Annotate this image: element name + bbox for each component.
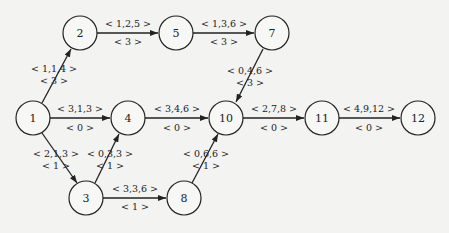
edge-label-11-12-a: < 4,9,12 >	[343, 103, 395, 114]
node-12: 12	[401, 101, 435, 135]
node-1: 1	[16, 101, 50, 135]
svg-text:12: 12	[411, 112, 425, 125]
edge-label-1-4-b: < 0 >	[66, 122, 94, 133]
edge-label-3-4-b: < 1 >	[96, 160, 124, 171]
svg-text:7: 7	[269, 27, 276, 40]
edge-label-1-3-b: < 1 >	[42, 160, 70, 171]
edge-label-3-8-b: < 1 >	[121, 201, 149, 212]
node-10: 10	[209, 101, 243, 135]
edge-label-4-10-a: < 3,4,6 >	[154, 103, 200, 114]
edge-label-7-10-a: < 0,4,6 >	[227, 65, 273, 76]
svg-text:8: 8	[181, 192, 188, 205]
svg-text:3: 3	[83, 192, 90, 205]
svg-text:5: 5	[173, 27, 180, 40]
edge-label-7-10-b: < 3 >	[236, 77, 264, 88]
node-4: 4	[111, 101, 145, 135]
edge-label-1-2-b: < 3 >	[40, 75, 68, 86]
edge-label-5-7-b: < 3 >	[210, 36, 238, 47]
edge-label-8-10-b: < 1 >	[192, 160, 220, 171]
edge-label-8-10-a: < 0,6,6 >	[183, 148, 229, 159]
svg-text:11: 11	[315, 112, 329, 125]
svg-text:2: 2	[77, 27, 84, 40]
edge-label-1-4-a: < 3,1,3 >	[57, 103, 103, 114]
edge-label-3-8-a: < 3,3,6 >	[112, 183, 158, 194]
edge-label-2-5-b: < 3 >	[114, 36, 142, 47]
edge-label-1-2-a: < 1,1,4 >	[31, 63, 77, 74]
svg-text:1: 1	[30, 112, 37, 125]
edge-label-2-5-a: < 1,2,5 >	[105, 18, 151, 29]
node-8: 8	[167, 181, 201, 215]
node-11: 11	[305, 101, 339, 135]
node-2: 2	[63, 16, 97, 50]
svg-text:10: 10	[219, 112, 233, 125]
edge-label-11-12-b: < 0 >	[355, 122, 383, 133]
network-diagram: < 1,1,4 > < 3 > < 1,2,5 > < 3 > < 1,3,6 …	[0, 0, 449, 233]
edge-label-4-10-b: < 0 >	[163, 122, 191, 133]
edge-label-5-7-a: < 1,3,6 >	[201, 18, 247, 29]
svg-text:4: 4	[125, 112, 132, 125]
node-5: 5	[159, 16, 193, 50]
edge-label-10-11-b: < 0 >	[260, 122, 288, 133]
edge-label-1-3-a: < 2,1,3 >	[33, 148, 79, 159]
edge-label-3-4-a: < 0,3,3 >	[87, 148, 133, 159]
node-7: 7	[255, 16, 289, 50]
node-3: 3	[69, 181, 103, 215]
edge-label-10-11-a: < 2,7,8 >	[251, 103, 297, 114]
